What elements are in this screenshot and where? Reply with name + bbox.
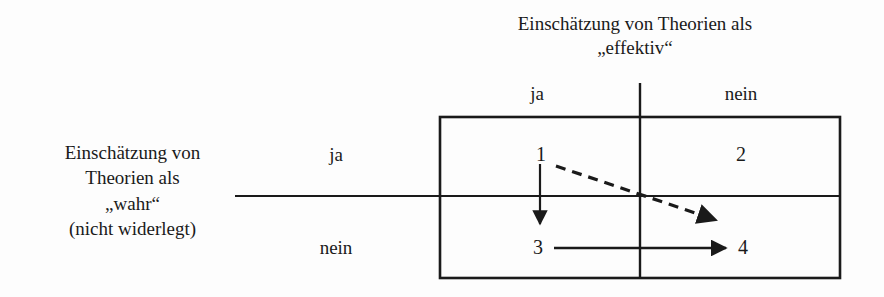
- row-header-ja: ja: [266, 143, 406, 167]
- row-axis-title-line1: Einschätzung von: [10, 140, 255, 165]
- row-axis-title-line4: (nicht widerlegt): [10, 216, 255, 241]
- matrix-cell-4: 4: [723, 235, 763, 261]
- column-header-nein: nein: [681, 82, 801, 106]
- column-axis-title-line2: „effektiv“: [435, 36, 835, 60]
- column-header-ja: ja: [477, 82, 597, 106]
- arrow-1-to-4: [556, 166, 716, 220]
- row-axis-title-line3: „wahr“: [10, 191, 255, 216]
- matrix-cell-2: 2: [721, 142, 761, 168]
- figure-canvas: Einschätzung von Theorien als „effektiv“…: [0, 0, 884, 297]
- row-axis-title-line2: Theorien als: [10, 165, 255, 190]
- column-axis-title-line1: Einschätzung von Theorien als: [518, 13, 752, 34]
- column-axis-title: Einschätzung von Theorien als „effektiv“: [435, 12, 835, 61]
- row-axis-title: Einschätzung von Theorien als „wahr“ (ni…: [10, 140, 255, 241]
- matrix-cell-3: 3: [518, 235, 558, 261]
- matrix-cell-1: 1: [521, 142, 561, 168]
- row-header-nein: nein: [266, 236, 406, 260]
- matrix-outer-box: [440, 117, 840, 278]
